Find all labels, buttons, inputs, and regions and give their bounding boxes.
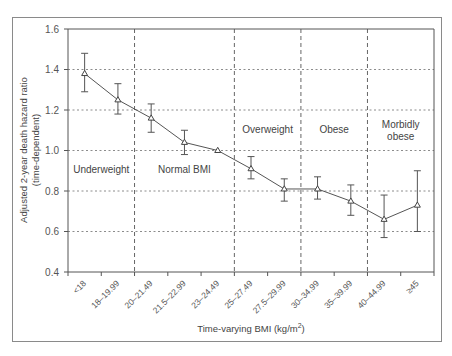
triangle-marker-icon (315, 186, 321, 191)
y-axis-title-line1: Adjusted 2-year death hazard ratio (18, 77, 29, 223)
x-category-label: 27.5–29.99 (251, 278, 288, 315)
region-label: obese (387, 131, 415, 142)
region-label: Overweight (242, 124, 293, 135)
x-category-label: 18–19.99 (89, 278, 121, 310)
axis-titles: Adjusted 2-year death hazard ratio (time… (18, 77, 305, 334)
y-tick-label: 1.2 (45, 105, 59, 116)
grid-lines (68, 70, 434, 232)
x-category-label: 25–27.49 (222, 278, 254, 310)
x-category-label: 21.5–22.99 (151, 278, 188, 315)
x-category-label: ≥45 (404, 278, 421, 295)
x-category-label: 40–44.99 (355, 278, 387, 310)
region-label: Morbidly (382, 119, 420, 130)
triangle-marker-icon (414, 202, 420, 207)
triangle-marker-icon (181, 139, 187, 144)
y-axis-title-line2: (time-dependent) (30, 114, 41, 186)
y-tick-label: 1.0 (45, 145, 59, 156)
y-axis-ticks: 0.40.60.81.01.21.41.6 (45, 24, 68, 278)
bmi-hazard-chart: 0.40.60.81.01.21.41.6 <1818–19.9920–21.4… (0, 0, 452, 356)
region-label: Underweight (73, 164, 129, 175)
triangle-marker-icon (115, 97, 121, 102)
y-tick-label: 0.8 (45, 186, 59, 197)
y-tick-label: 0.6 (45, 226, 59, 237)
x-category-label: 35–39.99 (322, 278, 354, 310)
data-series (81, 53, 421, 237)
y-tick-label: 1.6 (45, 24, 59, 35)
x-axis-ticks: <1818–19.9920–21.4921.5–22.9923–24.4925–… (68, 272, 434, 315)
triangle-marker-icon (281, 186, 287, 191)
region-label: Obese (319, 124, 349, 135)
x-category-label: <18 (71, 278, 88, 295)
x-axis-title: Time-varying BMI (kg/m2) (197, 322, 305, 334)
region-dividers (135, 29, 368, 272)
x-category-label: 30–34.99 (289, 278, 321, 310)
x-category-label: 23–24.49 (189, 278, 221, 310)
triangle-marker-icon (82, 70, 88, 75)
region-label: Normal BMI (158, 164, 211, 175)
x-category-label: 20–21.49 (122, 278, 154, 310)
y-tick-label: 1.4 (45, 64, 59, 75)
y-tick-label: 0.4 (45, 267, 59, 278)
